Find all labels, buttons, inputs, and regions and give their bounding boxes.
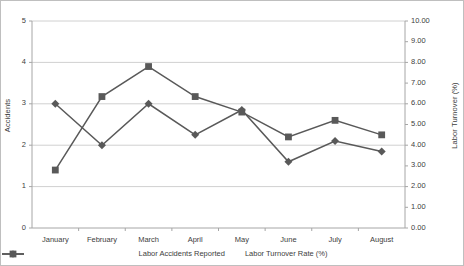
y-axis-right-tick-9.00: 9.00 bbox=[411, 36, 445, 45]
y-axis-right-tick-10.00: 10.00 bbox=[411, 16, 445, 25]
data-point-1-0 bbox=[52, 167, 59, 174]
chart-legend: Labor Accidents Reported Labor Turnover … bbox=[1, 249, 464, 258]
y-axis-right-title: Labor Turnover (%) bbox=[450, 73, 459, 159]
y-axis-left-tick-0: 0 bbox=[6, 223, 26, 232]
data-point-1-1 bbox=[99, 93, 106, 100]
y-axis-left-tick-3: 3 bbox=[6, 98, 26, 107]
data-point-0-7 bbox=[378, 147, 386, 155]
square-marker-icon bbox=[1, 249, 25, 259]
legend-label-turnover: Labor Turnover Rate (%) bbox=[245, 249, 328, 258]
legend-item-accidents[interactable]: Labor Accidents Reported bbox=[139, 249, 225, 258]
data-point-1-6 bbox=[332, 117, 339, 124]
y-axis-right-tick-6.00: 6.00 bbox=[411, 98, 445, 107]
y-axis-right-tick-4.00: 4.00 bbox=[411, 140, 445, 149]
data-point-0-6 bbox=[331, 137, 339, 145]
data-point-1-7 bbox=[378, 131, 385, 138]
y-axis-right-tick-0.00: 0.00 bbox=[411, 223, 445, 232]
data-point-1-4 bbox=[238, 109, 245, 116]
y-axis-right-tick-1.00: 1.00 bbox=[411, 202, 445, 211]
legend-label-accidents: Labor Accidents Reported bbox=[139, 249, 225, 258]
y-axis-right-tick-8.00: 8.00 bbox=[411, 57, 445, 66]
data-point-1-5 bbox=[285, 134, 292, 141]
x-axis-label-august: August bbox=[352, 235, 412, 244]
y-axis-left-tick-1: 1 bbox=[6, 181, 26, 190]
y-axis-left-tick-2: 2 bbox=[6, 140, 26, 149]
y-axis-right-tick-2.00: 2.00 bbox=[411, 181, 445, 190]
y-axis-right-tick-3.00: 3.00 bbox=[411, 160, 445, 169]
chart-container: Accidents Labor Turnover (%) 012345 0.00… bbox=[0, 0, 464, 266]
y-axis-right-tick-5.00: 5.00 bbox=[411, 119, 445, 128]
chart-plot-area bbox=[1, 1, 464, 266]
data-point-1-2 bbox=[145, 63, 152, 70]
series-line-0 bbox=[55, 104, 381, 162]
y-axis-left-tick-4: 4 bbox=[6, 57, 26, 66]
data-point-0-3 bbox=[191, 131, 199, 139]
legend-item-turnover[interactable]: Labor Turnover Rate (%) bbox=[245, 249, 328, 258]
y-axis-left-tick-5: 5 bbox=[6, 16, 26, 25]
data-point-1-3 bbox=[192, 93, 199, 100]
y-axis-left-title: Accidents bbox=[3, 83, 12, 149]
y-axis-right-tick-7.00: 7.00 bbox=[411, 78, 445, 87]
